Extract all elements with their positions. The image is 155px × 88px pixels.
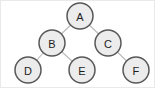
tree-node-c[interactable]: C (95, 30, 121, 56)
diagram-canvas: ABCDEF (0, 0, 155, 88)
node-layer: ABCDEF (15, 3, 149, 83)
node-label-e: E (78, 65, 86, 77)
tree-node-b[interactable]: B (39, 30, 65, 56)
node-label-b: B (48, 38, 56, 50)
node-label-d: D (24, 65, 32, 77)
tree-node-d[interactable]: D (15, 57, 41, 83)
node-label-f: F (133, 65, 140, 77)
node-label-c: C (104, 38, 112, 50)
tree-node-a[interactable]: A (67, 3, 93, 29)
tree-node-e[interactable]: E (69, 57, 95, 83)
binary-tree-diagram: ABCDEF (1, 1, 155, 88)
node-label-a: A (76, 11, 84, 23)
tree-node-f[interactable]: F (123, 57, 149, 83)
